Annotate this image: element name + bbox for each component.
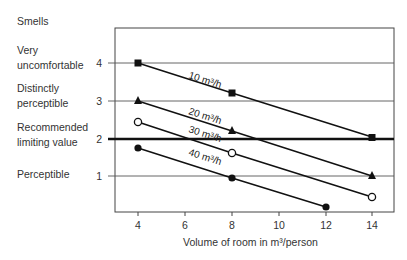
x-tick-6: 6 (182, 219, 188, 231)
x-tick-14: 14 (366, 219, 378, 231)
series-10 (135, 60, 376, 142)
series-label-10: 10 m³/h (187, 69, 223, 90)
open-circle-marker-icon (228, 149, 235, 156)
square-marker-icon (135, 60, 142, 67)
square-marker-icon (229, 90, 236, 97)
square-marker-icon (369, 134, 376, 141)
x-tick-8: 8 (229, 219, 235, 231)
series-label-40: 40 m³/h (187, 146, 223, 167)
filled-circle-marker-icon (228, 174, 235, 181)
filled-circle-marker-icon (322, 203, 329, 210)
x-axis-title: Volume of room in m³/person (183, 236, 318, 248)
filled-circle-marker-icon (134, 144, 141, 151)
x-tick-12: 12 (320, 219, 332, 231)
y-tick-1: 1 (96, 170, 102, 182)
x-tick-10: 10 (273, 219, 285, 231)
open-circle-marker-icon (134, 118, 141, 125)
y-tick-4: 4 (96, 57, 102, 69)
y-tick-2: 2 (96, 133, 102, 145)
series-20 (134, 96, 376, 179)
y-tick-3: 3 (96, 95, 102, 107)
x-tick-4: 4 (135, 219, 141, 231)
chart-plot: 4 3 2 1 4 6 8 10 12 14 Volume of room in… (0, 0, 407, 260)
series-30 (134, 118, 375, 200)
open-circle-marker-icon (368, 193, 375, 200)
triangle-marker-icon (134, 96, 142, 104)
